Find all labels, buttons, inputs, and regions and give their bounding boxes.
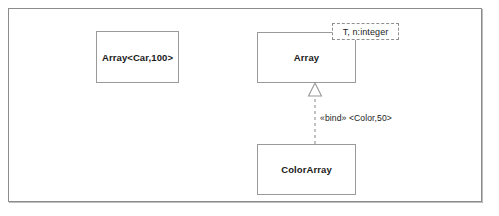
class-box-colorarray[interactable]: ColorArray — [257, 144, 356, 195]
class-name-bound-array: Array<Car,100> — [102, 52, 173, 63]
generalization-hollow-triangle-arrowhead — [309, 83, 322, 96]
template-parameter-label: T, n:integer — [343, 27, 389, 37]
template-parameter-compartment[interactable]: T, n:integer — [332, 23, 399, 40]
class-name-colorarray: ColorArray — [281, 164, 332, 175]
bind-dependency-label: «bind» <Color,50> — [320, 113, 392, 123]
class-name-array: Array — [294, 52, 319, 63]
class-box-bound-array[interactable]: Array<Car,100> — [96, 31, 179, 83]
diagram-frame: Array<Car,100> Array T, n:integer «bind»… — [8, 8, 482, 202]
diagram-canvas: Array<Car,100> Array T, n:integer «bind»… — [0, 0, 499, 216]
